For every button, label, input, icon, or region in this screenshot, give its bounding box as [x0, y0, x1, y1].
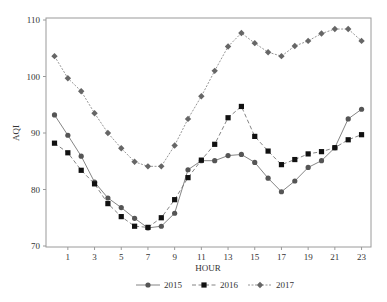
data-point-2016	[52, 141, 57, 146]
data-point-2017	[332, 26, 338, 32]
data-point-2017	[345, 26, 351, 32]
legend-item-2017: 2017	[248, 280, 295, 290]
data-point-2016	[346, 137, 351, 142]
series-line-2015	[55, 109, 362, 228]
aqi-line-chart: 708090100110 1357911131517192123 HOUR AQ…	[0, 0, 387, 302]
series-line-2017	[55, 29, 362, 166]
data-point-2016	[306, 151, 311, 156]
data-point-2016	[132, 224, 137, 229]
legend-label: 2015	[164, 280, 183, 290]
data-point-2017	[185, 116, 191, 122]
y-tick-label: 110	[27, 15, 41, 25]
x-tick-label: 23	[357, 252, 367, 262]
x-tick-label: 3	[92, 252, 97, 262]
legend-marker-diamond	[257, 282, 263, 288]
y-tick-label: 90	[31, 128, 41, 138]
data-point-2017	[198, 93, 204, 99]
data-point-2017	[158, 163, 164, 169]
data-point-2015	[159, 224, 164, 229]
data-point-2016	[199, 158, 204, 163]
y-tick-label: 80	[31, 185, 41, 195]
data-point-2016	[185, 175, 190, 180]
data-point-2015	[79, 154, 84, 159]
data-point-2016	[252, 134, 257, 139]
legend-label: 2017	[276, 280, 295, 290]
y-axis: 708090100110	[27, 15, 47, 251]
data-point-2015	[105, 195, 110, 200]
x-axis: 1357911131517192123	[66, 247, 367, 262]
series-2015	[52, 107, 364, 231]
data-point-2015	[319, 158, 324, 163]
data-point-2016	[145, 225, 150, 230]
data-point-2016	[359, 132, 364, 137]
data-point-2015	[132, 216, 137, 221]
x-tick-label: 9	[172, 252, 177, 262]
data-point-2015	[185, 167, 190, 172]
data-point-2015	[359, 107, 364, 112]
series-layer	[51, 26, 364, 231]
data-point-2016	[79, 168, 84, 173]
series-2016	[52, 104, 364, 230]
legend-label: 2016	[220, 280, 239, 290]
data-point-2016	[279, 162, 284, 167]
x-tick-label: 17	[277, 252, 287, 262]
data-point-2015	[346, 116, 351, 121]
x-tick-label: 5	[119, 252, 124, 262]
data-point-2015	[119, 205, 124, 210]
x-tick-label: 13	[224, 252, 234, 262]
data-point-2015	[65, 133, 70, 138]
data-point-2017	[105, 130, 111, 136]
data-point-2016	[319, 149, 324, 154]
data-point-2015	[212, 158, 217, 163]
data-point-2016	[332, 145, 337, 150]
y-tick-label: 70	[31, 241, 41, 251]
x-tick-label: 21	[330, 252, 339, 262]
x-axis-title: HOUR	[195, 263, 221, 273]
data-point-2017	[305, 38, 311, 44]
data-point-2016	[92, 181, 97, 186]
data-point-2015	[306, 165, 311, 170]
y-axis-title: AQI	[11, 125, 21, 141]
data-point-2015	[239, 152, 244, 157]
data-point-2017	[212, 68, 218, 74]
data-point-2017	[292, 43, 298, 49]
x-tick-label: 7	[146, 252, 151, 262]
legend-marker-circle	[145, 282, 150, 287]
data-point-2017	[318, 30, 324, 36]
legend: 201520162017	[136, 280, 295, 290]
plot-frame	[46, 18, 371, 247]
data-point-2015	[279, 189, 284, 194]
data-point-2015	[52, 112, 57, 117]
data-point-2016	[105, 201, 110, 206]
plot-border	[46, 18, 371, 247]
data-point-2016	[292, 157, 297, 162]
y-tick-label: 100	[27, 72, 41, 82]
data-point-2017	[78, 88, 84, 94]
legend-item-2015: 2015	[136, 280, 183, 290]
data-point-2015	[172, 211, 177, 216]
data-point-2015	[266, 176, 271, 181]
x-tick-label: 11	[197, 252, 206, 262]
data-point-2015	[292, 178, 297, 183]
data-point-2017	[171, 142, 177, 148]
data-point-2016	[266, 148, 271, 153]
legend-marker-square	[201, 282, 206, 287]
data-point-2017	[265, 49, 271, 55]
data-point-2017	[145, 163, 151, 169]
data-point-2016	[239, 104, 244, 109]
series-line-2016	[55, 106, 362, 227]
data-point-2015	[225, 153, 230, 158]
x-tick-label: 19	[304, 252, 314, 262]
data-point-2016	[159, 215, 164, 220]
series-2017	[51, 26, 364, 170]
x-tick-label: 1	[66, 252, 71, 262]
data-point-2016	[172, 197, 177, 202]
data-point-2016	[119, 214, 124, 219]
data-point-2017	[51, 53, 57, 59]
data-point-2017	[278, 53, 284, 59]
data-point-2016	[225, 115, 230, 120]
data-point-2017	[91, 110, 97, 116]
data-point-2016	[65, 150, 70, 155]
x-tick-label: 15	[250, 252, 260, 262]
legend-item-2016: 2016	[192, 280, 239, 290]
